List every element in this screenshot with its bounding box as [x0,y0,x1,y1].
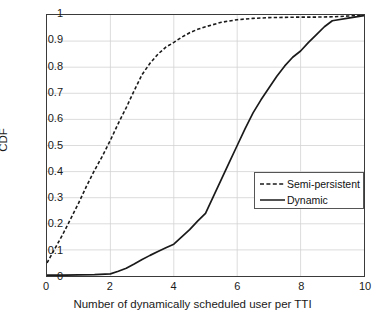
legend-item-dynamic[interactable]: Dynamic [259,192,363,208]
y-tick-label: 0.6 [48,113,63,124]
y-tick-label: 0 [57,271,63,282]
y-tick-label: 0.1 [48,245,63,256]
x-tick-label: 0 [43,281,49,292]
y-tick-label: 0.4 [48,166,63,177]
legend-solid-line-icon [259,195,286,205]
y-tick-label: 0.3 [48,192,63,203]
cdf-chart-figure: 00.10.20.30.40.50.60.70.80.91 0246810 CD… [0,0,385,321]
x-tick-label: 10 [359,281,371,292]
legend-dashed-line-icon [259,179,286,189]
legend-item-semi-persistent[interactable]: Semi-persistent [259,176,363,192]
plot-area [46,14,365,277]
chart-legend[interactable]: Semi-persistent Dynamic [254,172,364,209]
y-axis-title: CDF [0,128,9,152]
x-tick-label: 8 [298,281,304,292]
legend-label-dynamic: Dynamic [287,195,328,206]
y-tick-label: 1 [57,8,63,19]
x-axis-title: Number of dynamically scheduled user per… [0,298,385,310]
y-tick-label: 0.5 [48,140,63,151]
series-line-semi-persistent [47,15,364,263]
series-line-dynamic [47,16,364,276]
y-tick-label: 0.2 [48,218,63,229]
x-tick-label: 4 [171,281,177,292]
y-tick-label: 0.8 [48,61,63,72]
legend-label-semi-persistent: Semi-persistent [287,179,360,190]
y-tick-label: 0.7 [48,87,63,98]
x-tick-label: 6 [234,281,240,292]
data-curves [47,15,364,276]
x-tick-label: 2 [107,281,113,292]
y-tick-label: 0.9 [48,34,63,45]
